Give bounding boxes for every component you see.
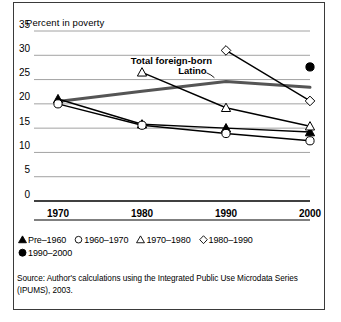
legend-label: 1980–1990 bbox=[209, 234, 253, 247]
legend-item-1990-2000[interactable]: 1990–2000 bbox=[17, 247, 72, 260]
legend-item-1970-1980[interactable]: 1970–1980 bbox=[135, 234, 190, 247]
point-1960-1970-1980 bbox=[138, 121, 146, 129]
point-1960-1970-1970 bbox=[54, 100, 62, 108]
legend-item-pre-1960[interactable]: Pre–1960 bbox=[17, 234, 66, 247]
x-tick-label-1990: 1990 bbox=[215, 208, 238, 219]
open-circle-icon bbox=[73, 234, 84, 247]
x-tick-label-2000: 2000 bbox=[299, 208, 322, 219]
legend-label: 1970–1980 bbox=[146, 234, 190, 247]
open-triangle-icon bbox=[135, 234, 146, 247]
point-1980-1990-2000 bbox=[305, 96, 315, 106]
y-tick-label-10: 10 bbox=[19, 140, 31, 151]
source-note: Source: Author's calculations using the … bbox=[17, 273, 312, 296]
point-1990-2000-2000 bbox=[306, 63, 314, 71]
legend-label: 1990–2000 bbox=[28, 247, 72, 260]
x-tick-label-1980: 1980 bbox=[131, 208, 154, 219]
filled-circle-icon bbox=[17, 247, 28, 260]
filled-triangle-icon bbox=[17, 234, 28, 247]
legend-row: 1990–2000 bbox=[17, 247, 323, 260]
y-tick-label-35: 35 bbox=[19, 19, 31, 30]
point-1970-1980-1980 bbox=[137, 68, 146, 76]
annotation-latino: Latino bbox=[178, 65, 207, 76]
point-1960-1970-2000 bbox=[306, 137, 314, 145]
y-tick-label-15: 15 bbox=[19, 116, 31, 127]
x-tick-label-1970: 1970 bbox=[47, 208, 70, 219]
latino-leader-line bbox=[206, 73, 214, 78]
chart-plot: 051015202530351970198019902000Total fore… bbox=[14, 3, 324, 243]
y-tick-label-0: 0 bbox=[24, 189, 30, 200]
series-line-latino bbox=[58, 82, 310, 102]
legend-label: 1960–1970 bbox=[84, 234, 128, 247]
series-line-1960-1970 bbox=[58, 104, 310, 141]
series-line-1980-1990 bbox=[226, 50, 310, 101]
y-tick-label-30: 30 bbox=[19, 43, 31, 54]
legend-item-1980-1990[interactable]: 1980–1990 bbox=[198, 234, 253, 247]
chart-legend: Pre–19601960–19701970–19801980–19901990–… bbox=[17, 234, 323, 260]
open-diamond-icon bbox=[198, 234, 209, 247]
legend-label: Pre–1960 bbox=[28, 234, 66, 247]
figure-frame: Percent in poverty 051015202530351970198… bbox=[13, 2, 325, 310]
point-1960-1970-1990 bbox=[222, 129, 230, 137]
point-1970-1980-1990 bbox=[221, 103, 230, 111]
y-tick-label-25: 25 bbox=[19, 67, 31, 78]
y-tick-label-5: 5 bbox=[24, 164, 30, 175]
legend-item-1960-1970[interactable]: 1960–1970 bbox=[73, 234, 128, 247]
legend-row: Pre–19601960–19701970–19801980–1990 bbox=[17, 234, 323, 247]
point-1980-1990-1990 bbox=[221, 46, 231, 56]
y-tick-label-20: 20 bbox=[19, 91, 31, 102]
